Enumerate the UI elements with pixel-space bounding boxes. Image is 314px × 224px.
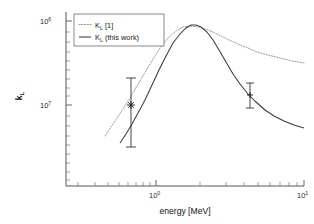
svg-text:kL: kL: [14, 91, 25, 100]
x-tick-2-exp: 1: [305, 190, 308, 196]
x-tick-label-2: 101: [297, 190, 308, 200]
chart-figure: 106 107: [0, 0, 314, 224]
y-axis-title: kL: [14, 91, 25, 100]
data-point-1: [126, 78, 136, 147]
legend-entry-2-rest: (this work): [103, 33, 139, 42]
data-point-1-marker: [127, 101, 135, 109]
data-point-2-marker: [247, 92, 253, 98]
svg-text:101: 101: [297, 190, 308, 200]
y-tick-label-lower: 107: [40, 100, 51, 110]
x-axis-title: energy [MeV]: [159, 206, 210, 216]
y-axis-ticks: [66, 21, 72, 180]
y-tick-lower-exp: 7: [48, 100, 51, 106]
chart-canvas: 106 107: [0, 0, 314, 224]
y-tick-lower-base: 10: [40, 101, 48, 110]
svg-text:KL [1]: KL [1]: [95, 21, 113, 31]
y-axis-title-sub: L: [19, 91, 25, 95]
y-tick-upper-exp: 6: [48, 16, 51, 22]
y-tick-label-upper: 106: [40, 16, 51, 26]
data-point-2: [246, 83, 254, 108]
x-axis-title-text: energy [MeV]: [159, 206, 210, 216]
x-tick-2-base: 10: [297, 191, 305, 200]
svg-text:100: 100: [149, 190, 160, 200]
legend-entry-1-rest: [1]: [103, 21, 113, 30]
y-tick-upper-base: 10: [40, 17, 48, 26]
x-tick-1-base: 10: [149, 191, 157, 200]
x-tick-1-exp: 0: [157, 190, 160, 196]
svg-text:106: 106: [40, 16, 51, 26]
x-tick-label-1: 100: [149, 190, 160, 200]
chart-legend: KL [1] KL (this work): [74, 14, 164, 46]
svg-text:107: 107: [40, 100, 51, 110]
x-axis-ticks: [78, 180, 304, 186]
